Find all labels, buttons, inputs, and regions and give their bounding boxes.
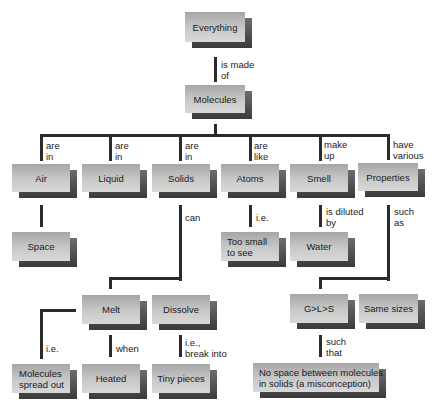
node-label: G>L>S <box>290 294 348 323</box>
link-label-is-made-of: is made of <box>221 59 254 81</box>
node-air: Air <box>12 164 70 192</box>
link-label-ie-melt: i.e. <box>46 343 59 354</box>
link-label-are-like: are like <box>254 140 268 162</box>
node-label: Melt <box>82 295 140 324</box>
link-label-ie-break-into: i.e., break into <box>185 337 227 359</box>
node-label: Water <box>290 232 348 261</box>
link-label-have-various: have various <box>393 139 424 161</box>
node-label: Atoms <box>221 164 279 192</box>
node-melt: Melt <box>82 295 140 324</box>
connector-to-smell <box>319 134 322 161</box>
connector-melt-spread-out <box>40 309 43 359</box>
connector-to-solids <box>179 134 182 161</box>
connector-to-liquid <box>109 134 112 161</box>
concept-map: is made of are in are in are in are like… <box>0 0 436 408</box>
connector-to-atoms <box>249 134 252 161</box>
connector-melt-left <box>40 309 76 312</box>
connector-to-gls <box>319 277 322 289</box>
node-dissolve: Dissolve <box>152 295 210 324</box>
node-molecules-spread-out: Molecules spread out <box>12 364 70 393</box>
connector-to-properties <box>387 134 390 160</box>
link-label-is-diluted-by: is diluted by <box>326 206 364 228</box>
link-label-such-as: such as <box>394 206 414 228</box>
node-label: Dissolve <box>152 295 210 324</box>
connector-properties-down <box>387 205 390 281</box>
node-atoms: Atoms <box>221 164 279 192</box>
connector-to-air <box>40 134 43 161</box>
node-solids: Solids <box>152 164 210 192</box>
node-gls: G>L>S <box>290 294 348 323</box>
link-label-ie-atoms: i.e. <box>256 212 269 223</box>
node-label: Smell <box>290 164 348 192</box>
node-label: Liquid <box>82 164 140 192</box>
node-molecules: Molecules <box>185 85 245 113</box>
node-smell: Smell <box>290 164 348 192</box>
node-label: Heated <box>82 364 140 393</box>
node-properties: Properties <box>358 163 418 191</box>
node-label: Properties <box>358 163 418 191</box>
node-label: Molecules <box>185 85 245 113</box>
node-water: Water <box>290 232 348 261</box>
node-too-small-to-see: Too small to see <box>221 232 279 261</box>
connector-melt-dissolve-bar <box>109 277 182 280</box>
node-label: Too small to see <box>221 232 279 261</box>
node-tiny-pieces: Tiny pieces <box>152 364 210 393</box>
link-label-are-in-air: are in <box>46 140 60 162</box>
link-label-are-in-solids: are in <box>185 140 199 162</box>
connector-to-melt <box>109 277 112 289</box>
connector-everything-molecules <box>214 57 217 82</box>
node-label: Space <box>12 232 70 261</box>
connector-solids-down <box>179 205 182 281</box>
node-liquid: Liquid <box>82 164 140 192</box>
connector-air-space <box>40 205 43 227</box>
connector-gls-no-space <box>319 335 322 357</box>
node-space: Space <box>12 232 70 261</box>
link-label-can: can <box>185 212 200 223</box>
node-label: Tiny pieces <box>152 364 210 393</box>
connector-dissolve-tiny <box>179 335 182 357</box>
node-heated: Heated <box>82 364 140 393</box>
connector-gls-same-bar <box>319 277 390 280</box>
node-label: Molecules spread out <box>12 364 70 393</box>
node-everything: Everything <box>185 12 245 42</box>
link-label-are-in-liquid: are in <box>115 140 129 162</box>
link-label-make-up: make up <box>324 139 347 161</box>
node-same-sizes: Same sizes <box>359 294 418 323</box>
connector-smell-water <box>319 205 322 227</box>
node-no-space-misconception: No space between molecules in solids (a … <box>253 363 379 392</box>
connector-melt-heated <box>109 335 112 357</box>
link-label-such-that: such that <box>326 336 346 358</box>
node-label: Same sizes <box>359 294 418 323</box>
connector-row1-bar <box>40 134 390 137</box>
connector-atoms-too-small <box>249 205 252 227</box>
link-label-when: when <box>116 343 139 354</box>
node-label: Air <box>12 164 70 192</box>
node-label: No space between molecules in solids (a … <box>253 363 379 392</box>
node-label: Solids <box>152 164 210 192</box>
node-label: Everything <box>185 12 245 42</box>
